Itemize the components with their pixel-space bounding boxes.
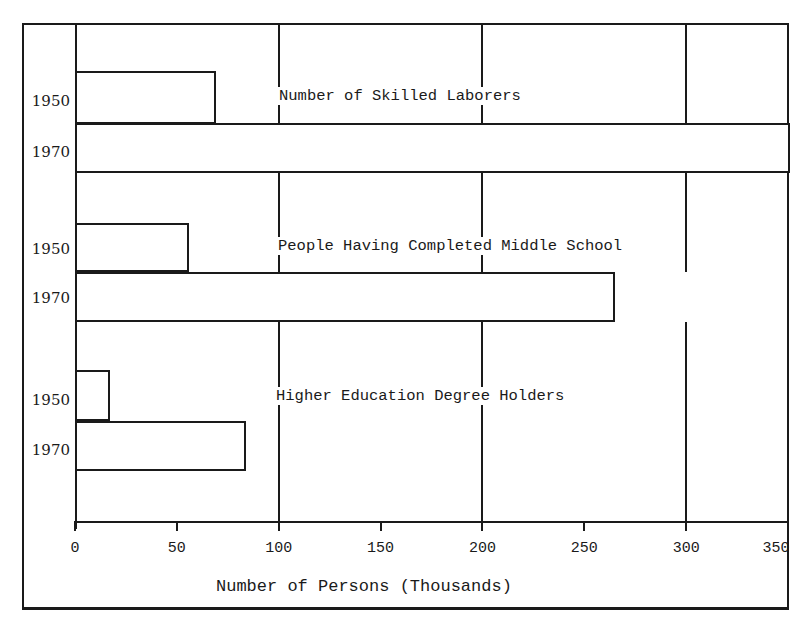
year-label-1970-skilled: 1970 bbox=[26, 143, 70, 161]
x-tick-0 bbox=[74, 521, 76, 531]
x-tick-150 bbox=[380, 521, 382, 531]
x-tick-label-100: 100 bbox=[254, 540, 304, 557]
x-tick-label-200: 200 bbox=[457, 540, 507, 557]
bar-skilled-laborers-1970 bbox=[75, 123, 790, 173]
x-tick-300 bbox=[685, 521, 687, 531]
year-label-1970-middle: 1970 bbox=[26, 289, 70, 307]
gridline-100 bbox=[278, 322, 280, 370]
year-label-1950-middle: 1950 bbox=[26, 240, 70, 258]
x-tick-label-150: 150 bbox=[356, 540, 406, 557]
gridline-100 bbox=[278, 23, 280, 71]
year-label-1950-skilled: 1950 bbox=[26, 92, 70, 110]
gridline-300 bbox=[685, 322, 687, 370]
category-label-skilled-laborers: Number of Skilled Laborers bbox=[277, 87, 523, 105]
x-tick-250 bbox=[583, 521, 585, 531]
bar-higher-education-1950 bbox=[75, 370, 110, 421]
x-axis-line bbox=[75, 521, 789, 523]
year-label-1970-higher: 1970 bbox=[26, 441, 70, 459]
x-tick-50 bbox=[176, 521, 178, 531]
gridline-200 bbox=[481, 370, 483, 471]
gridline-100 bbox=[278, 173, 280, 223]
gridline-300 bbox=[685, 370, 687, 471]
x-tick-label-300: 300 bbox=[661, 540, 711, 557]
gridline-200 bbox=[481, 173, 483, 223]
gridline-100 bbox=[278, 370, 280, 471]
bar-middle-school-1950 bbox=[75, 223, 189, 272]
category-label-middle-school: People Having Completed Middle School bbox=[276, 237, 624, 255]
bar-skilled-laborers-1950 bbox=[75, 71, 216, 124]
gridline-200 bbox=[481, 322, 483, 370]
bar-middle-school-1970 bbox=[75, 272, 615, 322]
gridline-300 bbox=[685, 71, 687, 123]
x-tick-label-50: 50 bbox=[152, 540, 202, 557]
x-tick-200 bbox=[481, 521, 483, 531]
x-tick-350 bbox=[787, 521, 789, 531]
x-tick-100 bbox=[278, 521, 280, 531]
gridline-200 bbox=[481, 471, 483, 521]
x-axis-label: Number of Persons (Thousands) bbox=[216, 577, 512, 596]
gridline-200 bbox=[481, 23, 483, 71]
gridline-300 bbox=[685, 223, 687, 272]
year-label-1950-higher: 1950 bbox=[26, 391, 70, 409]
bar-higher-education-1970 bbox=[75, 421, 246, 471]
gridline-300 bbox=[685, 23, 687, 71]
x-tick-label-0: 0 bbox=[50, 540, 100, 557]
gridline-100 bbox=[278, 471, 280, 521]
x-tick-label-350: 350 bbox=[751, 540, 801, 557]
gridline-300 bbox=[685, 471, 687, 521]
category-label-higher-education: Higher Education Degree Holders bbox=[274, 387, 566, 405]
x-tick-label-250: 250 bbox=[559, 540, 609, 557]
gridline-300 bbox=[685, 173, 687, 223]
